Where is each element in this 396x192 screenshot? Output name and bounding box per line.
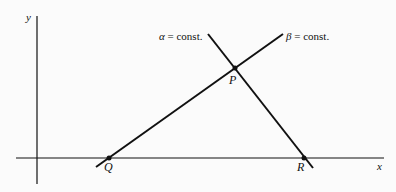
point-r-label: R bbox=[297, 160, 304, 175]
alpha-const-line bbox=[208, 34, 313, 168]
beta-label-text: = const. bbox=[291, 30, 329, 42]
point-p-label: P bbox=[229, 73, 236, 88]
diagram-canvas bbox=[0, 0, 396, 192]
alpha-line-label: α = const. bbox=[159, 30, 202, 42]
y-axis-label: y bbox=[26, 11, 31, 23]
coordinate-diagram: y x α = const. β = const. P Q R bbox=[0, 0, 396, 192]
point-p-marker bbox=[233, 66, 238, 71]
beta-line-label: β = const. bbox=[286, 30, 329, 42]
point-q-label: Q bbox=[104, 160, 113, 175]
beta-const-line bbox=[96, 34, 283, 167]
alpha-label-text: = const. bbox=[165, 30, 203, 42]
x-axis-label: x bbox=[377, 160, 382, 172]
